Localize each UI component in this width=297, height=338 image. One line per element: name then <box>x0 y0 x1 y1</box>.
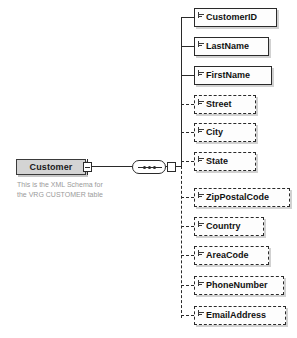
root-collapse-toggle[interactable] <box>83 162 92 172</box>
connector-branch <box>181 104 194 105</box>
element-label: Country <box>206 222 241 231</box>
simple-type-icon <box>198 250 204 256</box>
schema-diagram-canvas: Customer This is the XML Schema for the … <box>0 0 297 338</box>
connector-branch <box>181 315 194 316</box>
element-label: AreaCode <box>206 251 249 260</box>
element-node-state[interactable]: State <box>194 152 256 171</box>
simple-type-icon <box>198 192 204 198</box>
simple-type-icon <box>198 280 204 286</box>
element-node-areacode[interactable]: AreaCode <box>194 246 269 265</box>
simple-type-icon <box>198 221 204 227</box>
element-node-country[interactable]: Country <box>194 217 264 236</box>
root-toggle-nub-bottom <box>87 172 88 175</box>
element-node-lastname[interactable]: LastName <box>194 37 269 56</box>
sequence-compositor-icon[interactable] <box>132 160 166 174</box>
simple-type-icon <box>198 99 204 105</box>
trunk-line-required <box>181 18 182 167</box>
trunk-line-optional <box>181 166 182 318</box>
connector-branch <box>181 197 194 198</box>
element-label: Street <box>206 100 232 109</box>
element-label: PhoneNumber <box>206 281 268 290</box>
simple-type-icon <box>198 310 204 316</box>
element-label: City <box>206 128 223 137</box>
connector-branch <box>181 17 194 18</box>
sequence-dot-3 <box>153 166 156 169</box>
connector-branch <box>181 255 194 256</box>
connector-branch <box>181 132 194 133</box>
element-label: FirstName <box>206 71 250 80</box>
root-annotation-line-1: This is the XML Schema for <box>17 180 125 190</box>
connector-branch <box>181 46 194 47</box>
element-label: LastName <box>206 42 249 51</box>
root-element-customer[interactable]: Customer <box>16 159 86 175</box>
connector-branch <box>181 75 194 76</box>
minus-icon <box>85 167 90 168</box>
edge-root-to-sequence <box>92 166 132 167</box>
element-node-city[interactable]: City <box>194 123 256 142</box>
connector-branch <box>181 161 194 162</box>
sequence-dot-1 <box>143 166 146 169</box>
connector-branch <box>181 285 194 286</box>
element-label: State <box>206 157 228 166</box>
element-node-customerid[interactable]: CustomerID <box>194 8 277 27</box>
simple-type-icon <box>198 156 204 162</box>
element-node-phonenumber[interactable]: PhoneNumber <box>194 276 284 295</box>
element-label: ZipPostalCode <box>206 193 269 202</box>
simple-type-icon <box>198 127 204 133</box>
element-node-emailaddress[interactable]: EmailAddress <box>194 306 286 325</box>
simple-type-icon <box>198 41 204 47</box>
sequence-collapse-toggle[interactable] <box>167 162 176 172</box>
root-element-label: Customer <box>30 163 73 172</box>
element-node-street[interactable]: Street <box>194 95 256 114</box>
simple-type-icon <box>198 12 204 18</box>
simple-type-icon <box>198 70 204 76</box>
element-label: EmailAddress <box>206 311 266 320</box>
element-node-firstname[interactable]: FirstName <box>194 66 272 85</box>
sequence-dot-2 <box>148 166 151 169</box>
element-label: CustomerID <box>206 13 257 22</box>
root-annotation-line-2: the VRG CUSTOMER table <box>17 190 125 200</box>
element-node-zippostalcode[interactable]: ZipPostalCode <box>194 188 290 207</box>
connector-branch <box>181 226 194 227</box>
root-annotation: This is the XML Schema for the VRG CUSTO… <box>17 180 125 199</box>
